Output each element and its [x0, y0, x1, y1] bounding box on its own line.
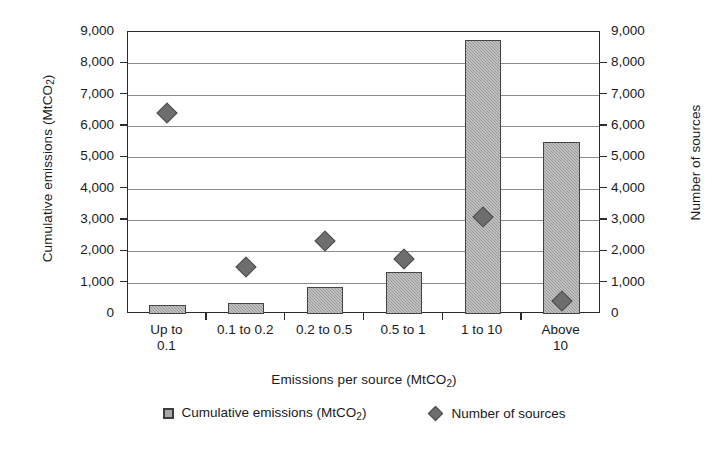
gridline — [128, 157, 599, 158]
y-tick-right — [600, 62, 607, 64]
y-axis-left-tick-label: 1,000 — [80, 275, 114, 289]
gridline — [128, 63, 599, 64]
marker-0.1-to-0.2[interactable] — [236, 256, 257, 277]
y-tick-left — [120, 281, 127, 283]
y-tick-right — [600, 156, 607, 158]
x-tick — [442, 313, 444, 320]
legend-item-number-of-sources: Number of sources — [428, 405, 565, 422]
legend-label-cumulative-emissions: Cumulative emissions (MtCO2) — [182, 405, 367, 422]
x-tick — [205, 313, 207, 320]
y-axis-left-tick-label: 5,000 — [80, 149, 114, 163]
chart-figure: Cumulative emissions (MtCO2) Number of s… — [0, 0, 720, 449]
bar-0.5-to-1[interactable] — [386, 272, 422, 314]
y-axis-right-tick-label: 3,000 — [611, 212, 645, 226]
x-axis-tick-label-up-to-0.1: Up to 0.1 — [127, 322, 206, 353]
y-axis-right-tick-label: 7,000 — [611, 87, 645, 101]
y-axis-right-tick-label: 9,000 — [611, 24, 645, 38]
y-axis-right-tick-label: 1,000 — [611, 275, 645, 289]
y-tick-right — [600, 218, 607, 220]
y-tick-right — [600, 187, 607, 189]
y-axis-left-tick-label: 9,000 — [80, 24, 114, 38]
y-tick-right — [600, 124, 607, 126]
gridline — [128, 220, 599, 221]
y-axis-left-title-subscript: 2 — [45, 79, 56, 85]
gridline — [128, 251, 599, 252]
gridline — [128, 95, 599, 96]
y-tick-left — [120, 218, 127, 220]
gridline — [128, 126, 599, 127]
marker-0.2-to-0.5[interactable] — [314, 231, 335, 252]
legend-item-cumulative-emissions: Cumulative emissions (MtCO2) — [163, 405, 367, 422]
y-tick-left — [120, 62, 127, 64]
y-axis-left-tick-label: 8,000 — [80, 55, 114, 69]
x-tick — [363, 313, 365, 320]
y-axis-right-title: Number of sources — [688, 53, 703, 273]
y-axis-left-title-text: Cumulative emissions (MtCO — [40, 85, 55, 262]
x-axis-tick-label-0.5-to-1: 0.5 to 1 — [364, 322, 443, 338]
y-axis-right-tick-label: 0 — [611, 306, 619, 320]
y-axis-left-title: Cumulative emissions (MtCO2) — [40, 43, 57, 293]
y-tick-right — [600, 93, 607, 95]
marker-up-to-0.1[interactable] — [157, 103, 178, 124]
bar-above-10[interactable] — [543, 142, 579, 314]
y-axis-left-tick-label: 6,000 — [80, 118, 114, 132]
x-axis-title: Emissions per source (MtCO2) — [127, 372, 601, 389]
x-tick — [520, 313, 522, 320]
x-axis-title-tail: ) — [452, 372, 457, 387]
y-axis-left-tick-label: 2,000 — [80, 243, 114, 257]
y-axis-left-title-tail: ) — [40, 75, 55, 80]
y-tick-left — [120, 250, 127, 252]
x-tick — [284, 313, 286, 320]
y-tick-right — [600, 250, 607, 252]
y-axis-right-tick-label: 5,000 — [611, 149, 645, 163]
x-axis-tick-label-1-to-10: 1 to 10 — [442, 322, 521, 338]
y-tick-left — [120, 124, 127, 126]
y-axis-right-tick-label: 8,000 — [611, 55, 645, 69]
y-axis-right-tick-label: 4,000 — [611, 181, 645, 195]
bar-1-to-10[interactable] — [465, 40, 501, 314]
y-axis-left-tick-label: 3,000 — [80, 212, 114, 226]
y-tick-left — [120, 187, 127, 189]
y-tick-left — [120, 156, 127, 158]
y-axis-left-tick-label: 0 — [106, 306, 114, 320]
plot-area — [127, 31, 600, 313]
y-axis-left-tick-label: 7,000 — [80, 87, 114, 101]
y-axis-right-tick-label: 6,000 — [611, 118, 645, 132]
bar-0.2-to-0.5[interactable] — [307, 287, 343, 314]
x-axis-tick-label-0.1-to-0.2: 0.1 to 0.2 — [206, 322, 285, 338]
x-axis-tick-label-0.2-to-0.5: 0.2 to 0.5 — [285, 322, 364, 338]
x-axis-title-text: Emissions per source (MtCO — [271, 372, 446, 387]
y-tick-right — [600, 281, 607, 283]
y-axis-right-tick-label: 2,000 — [611, 243, 645, 257]
y-axis-left-tick-label: 4,000 — [80, 181, 114, 195]
diamond-swatch-icon — [428, 406, 444, 422]
gridline — [128, 189, 599, 190]
bar-swatch-icon — [163, 408, 174, 419]
y-tick-left — [120, 93, 127, 95]
legend-label-number-of-sources: Number of sources — [451, 406, 565, 421]
x-axis-tick-label-above-10: Above 10 — [521, 322, 600, 353]
bar-0.1-to-0.2[interactable] — [228, 303, 264, 314]
bar-up-to-0.1[interactable] — [149, 305, 185, 314]
chart-legend: Cumulative emissions (MtCO2) Number of s… — [127, 405, 601, 422]
gridline — [128, 283, 599, 284]
